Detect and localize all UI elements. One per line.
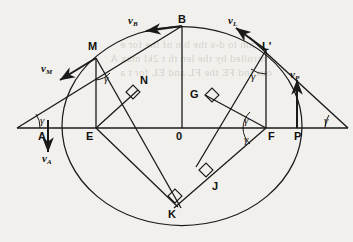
point-label-J: J — [212, 180, 218, 192]
right-angle-J — [199, 163, 213, 177]
angle-label-gamma-right: γ — [324, 114, 329, 126]
angle-label-gamma-F-upper: γ — [244, 114, 249, 126]
geometry-figure: A B E M N 0 G L' F P J K vM vB vL vP vA … — [0, 0, 353, 242]
point-label-P: P — [294, 130, 301, 142]
vector-label-vB: vB — [128, 14, 138, 28]
vector-label-vL: vL — [228, 14, 237, 28]
right-angle-G — [205, 88, 219, 102]
vector-label-vP: vP — [290, 68, 300, 82]
point-label-M: M — [88, 40, 97, 52]
point-label-G: G — [190, 88, 199, 100]
angle-label-gamma-F-lower: γ — [244, 133, 249, 145]
vector-label-vM: vM — [41, 62, 53, 76]
point-label-B: B — [178, 13, 186, 25]
point-label-F: F — [268, 130, 275, 142]
point-label-O: 0 — [176, 130, 182, 142]
right-angle-N — [126, 85, 140, 99]
point-label-L: L' — [262, 40, 272, 52]
vector-label-vA: vA — [42, 152, 52, 166]
angle-label-gamma-L: γ — [251, 70, 256, 82]
right-angle-K — [168, 189, 182, 203]
point-label-N: N — [140, 74, 148, 86]
segment-F-K — [174, 128, 266, 208]
angle-label-gamma-M: γ — [104, 72, 109, 84]
point-label-A: A — [38, 130, 46, 142]
point-label-K: K — [168, 208, 176, 220]
vector-arrow-vB — [146, 26, 182, 31]
point-label-E: E — [86, 130, 93, 142]
angle-label-gamma-left: γ — [40, 114, 45, 126]
diagonal-M-K — [96, 58, 181, 208]
left-triangle-hypotenuse — [17, 26, 182, 128]
segment-E-K — [96, 128, 178, 207]
